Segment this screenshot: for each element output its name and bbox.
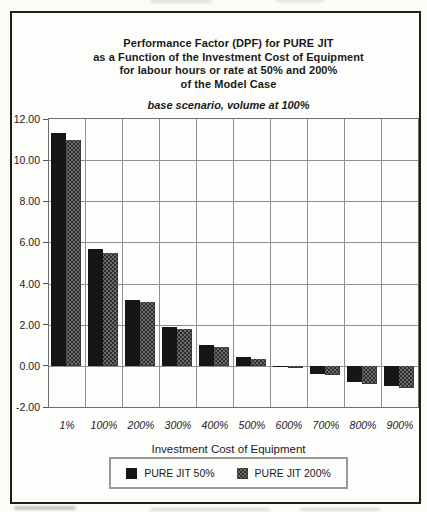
bar-pure-jit-200%-1% — [66, 140, 81, 366]
category-group-1%: 1% — [49, 119, 86, 407]
bar-pure-jit-200%-900% — [399, 366, 414, 389]
legend-swatch-gray-icon — [237, 468, 248, 479]
y-tick-label: 10.00 — [14, 154, 40, 166]
y-tick-label: 0.00 — [20, 360, 40, 372]
figure-frame: Performance Factor (DPF) for PURE JIT as… — [10, 11, 421, 504]
bar-pure-jit-50%-100% — [88, 249, 103, 366]
y-axis-tick — [43, 201, 48, 202]
legend-entry-pure-jit-200: PURE JIT 200% — [237, 467, 331, 479]
bar-pure-jit-200%-300% — [177, 329, 192, 366]
y-axis-tick — [43, 242, 48, 243]
bar-pure-jit-200%-400% — [214, 347, 229, 366]
bar-pure-jit-50%-600% — [273, 366, 288, 367]
category-label: 400% — [202, 419, 229, 431]
category-group-300%: 300% — [160, 119, 197, 407]
category-label: 800% — [350, 419, 377, 431]
y-axis-tick — [43, 324, 48, 325]
chart-title-line: of the Model Case — [42, 78, 415, 92]
bar-pure-jit-200%-500% — [251, 359, 266, 366]
bar-pure-jit-50%-400% — [199, 345, 214, 366]
category-group-700%: 700% — [308, 119, 345, 407]
scan-artifact — [150, 0, 212, 3]
category-group-400%: 400% — [197, 119, 234, 407]
y-axis-tick — [43, 160, 48, 161]
bar-pure-jit-50%-500% — [236, 357, 251, 366]
category-label: 500% — [239, 419, 266, 431]
category-group-800%: 800% — [345, 119, 382, 407]
scan-artifact — [276, 0, 324, 2]
category-label: 900% — [387, 419, 414, 431]
bar-pure-jit-50%-300% — [162, 327, 177, 366]
x-axis-title-line: Investment Cost of Equipment — [42, 443, 415, 457]
category-group-200%: 200% — [123, 119, 160, 407]
plot-area: 12.0010.008.006.004.002.000.00-2.001%100… — [48, 118, 419, 408]
category-group-600%: 600% — [271, 119, 308, 407]
y-tick-label: 2.00 — [20, 319, 40, 331]
bar-pure-jit-50%-900% — [384, 366, 399, 387]
legend-label: PURE JIT 200% — [255, 467, 331, 479]
bar-pure-jit-200%-800% — [362, 366, 377, 385]
y-tick-label: 4.00 — [20, 278, 40, 290]
y-axis-tick — [43, 283, 48, 284]
chart-subtitle: base scenario, volume at 100% — [42, 99, 415, 111]
chart-title: Performance Factor (DPF) for PURE JIT as… — [42, 37, 415, 91]
bar-pure-jit-50%-800% — [347, 366, 362, 382]
chart-title-line: Performance Factor (DPF) for PURE JIT — [42, 37, 415, 51]
category-label: 300% — [165, 419, 192, 431]
y-tick-label: -2.00 — [16, 401, 40, 413]
bar-pure-jit-50%-700% — [310, 366, 325, 374]
y-axis-tick — [43, 119, 48, 120]
bar-pure-jit-200%-600% — [288, 366, 303, 368]
legend-swatch-black-icon — [126, 468, 137, 479]
legend-label: PURE JIT 50% — [144, 467, 214, 479]
scan-artifact — [300, 508, 380, 511]
y-tick-label: 12.00 — [14, 113, 40, 125]
legend-entry-pure-jit-50: PURE JIT 50% — [126, 467, 214, 479]
bar-pure-jit-50%-200% — [125, 300, 140, 366]
category-label: 200% — [128, 419, 155, 431]
bar-pure-jit-200%-200% — [140, 302, 155, 366]
bar-pure-jit-200%-100% — [103, 253, 118, 366]
y-axis-tick — [43, 365, 48, 366]
category-label: 600% — [276, 419, 303, 431]
chart-title-line: as a Function of the Investment Cost of … — [42, 51, 415, 65]
category-group-100%: 100% — [86, 119, 123, 407]
scan-artifact — [14, 506, 76, 510]
category-label: 1% — [59, 419, 74, 431]
category-group-900%: 900% — [382, 119, 418, 407]
chart-title-line: for labour hours or rate at 50% and 200% — [42, 64, 415, 78]
legend-container: PURE JIT 50% PURE JIT 200% — [42, 457, 415, 489]
category-label: 700% — [313, 419, 340, 431]
category-group-500%: 500% — [234, 119, 271, 407]
scan-artifact — [150, 508, 270, 511]
bar-pure-jit-50%-1% — [51, 133, 66, 365]
category-label: 100% — [91, 419, 118, 431]
y-tick-label: 8.00 — [20, 195, 40, 207]
scanned-figure-page: Performance Factor (DPF) for PURE JIT as… — [0, 0, 427, 512]
y-tick-label: 6.00 — [20, 236, 40, 248]
y-axis-tick — [43, 407, 48, 408]
bar-pure-jit-200%-700% — [325, 366, 340, 375]
legend: PURE JIT 50% PURE JIT 200% — [109, 457, 348, 489]
bar-groups: 1%100%200%300%400%500%600%700%800%900% — [49, 119, 418, 407]
